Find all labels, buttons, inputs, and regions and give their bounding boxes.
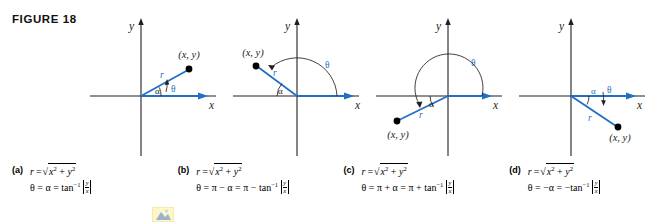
r-label: r bbox=[273, 68, 277, 78]
x-axis-label: x bbox=[354, 99, 361, 111]
point-dot bbox=[615, 124, 622, 131]
theta-label: θ bbox=[325, 60, 330, 70]
y-axis-arrowhead bbox=[445, 18, 450, 25]
r-segment bbox=[399, 96, 448, 120]
caption-a-tag: (a) bbox=[12, 163, 30, 175]
figure-label: FIGURE 18 bbox=[12, 13, 77, 25]
caption-a: (a) r =√x2 + y2 θ = α = tan−1 yx bbox=[0, 163, 166, 207]
y-axis-label: y bbox=[284, 20, 291, 33]
caption-b-tag: (b) bbox=[178, 163, 197, 175]
panel-d-diagram: y x (x, y) r θ α bbox=[517, 8, 660, 158]
panel-a: y x (x, y) r θ α bbox=[88, 8, 231, 158]
caption-row: (a) r =√x2 + y2 θ = α = tan−1 yx (b) r =… bbox=[0, 163, 663, 207]
caption-d-abs: yx bbox=[592, 180, 601, 194]
theta-label: θ bbox=[471, 58, 476, 68]
r-label: r bbox=[160, 70, 164, 80]
panel-d: y x (x, y) r θ α bbox=[517, 8, 660, 158]
theta-pointer-arrowhead bbox=[601, 100, 606, 106]
caption-a-tan-exp: −1 bbox=[74, 181, 81, 188]
y-axis-label: y bbox=[558, 20, 565, 33]
panel-b-diagram: y x (x, y) r θ α bbox=[231, 8, 374, 158]
caption-c-theta-equation: θ = π + α = π + tan−1 yx bbox=[362, 180, 455, 196]
caption-c-r-equation: r =√x2 + y2 bbox=[362, 163, 455, 180]
point-label: (x, y) bbox=[387, 129, 409, 141]
x-axis-label: x bbox=[208, 99, 215, 111]
caption-d: (d) r =√x2 + y2 θ = −α = −tan−1 yx bbox=[497, 163, 663, 207]
caption-a-theta-equation: θ = α = tan−1 yx bbox=[30, 180, 92, 196]
y-axis-arrowhead bbox=[138, 18, 143, 25]
panel-a-diagram: y x (x, y) r θ α bbox=[88, 8, 231, 158]
r-label: r bbox=[419, 110, 423, 120]
alpha-label: α bbox=[591, 86, 596, 96]
caption-d-tag: (d) bbox=[509, 163, 528, 175]
point-label: (x, y) bbox=[178, 49, 200, 61]
caption-d-theta-equation: θ = −α = −tan−1 yx bbox=[528, 180, 601, 196]
diagram-panels: y x (x, y) r θ α y x (x, y) r θ bbox=[88, 8, 663, 158]
alpha-label: α bbox=[155, 86, 160, 96]
alpha-label: α bbox=[278, 86, 283, 96]
page-corner-icon bbox=[152, 207, 174, 222]
alpha-label: α bbox=[429, 99, 434, 109]
panel-b: y x (x, y) r θ α bbox=[231, 8, 374, 158]
caption-c-tan: tan bbox=[424, 182, 436, 193]
y-axis-arrowhead bbox=[568, 18, 573, 25]
theta-label: θ bbox=[607, 85, 612, 95]
polar-axis-arrowhead bbox=[344, 92, 354, 99]
caption-b-tan: tan bbox=[259, 182, 271, 193]
caption-d-r-equation: r =√x2 + y2 bbox=[528, 163, 601, 180]
caption-c-abs: yx bbox=[445, 180, 454, 194]
caption-a-body: r =√x2 + y2 θ = α = tan−1 yx bbox=[30, 163, 92, 196]
caption-b: (b) r =√x2 + y2 θ = π − α = π − tan−1 yx bbox=[166, 163, 332, 207]
caption-b-theta-equation: θ = π − α = π − tan−1 yx bbox=[196, 180, 289, 196]
caption-d-tan-exp: −1 bbox=[583, 181, 590, 188]
theta-arc-arrowhead bbox=[416, 101, 422, 108]
caption-d-tan: tan bbox=[570, 182, 582, 193]
caption-b-body: r =√x2 + y2 θ = π − α = π − tan−1 yx bbox=[196, 163, 289, 196]
theta-label: θ bbox=[171, 84, 176, 94]
x-axis-label: x bbox=[492, 99, 499, 111]
panel-c-diagram: y x (x, y) r θ α bbox=[374, 8, 517, 158]
caption-b-tan-exp: −1 bbox=[271, 181, 278, 188]
polar-axis-arrowhead bbox=[482, 92, 492, 99]
y-axis-label: y bbox=[128, 20, 135, 33]
caption-a-r-equation: r =√x2 + y2 bbox=[30, 163, 92, 180]
point-label: (x, y) bbox=[242, 47, 264, 59]
x-axis-label: x bbox=[636, 99, 643, 111]
caption-a-theta-lhs: θ = α = bbox=[30, 182, 61, 193]
caption-a-tan: tan bbox=[61, 182, 73, 193]
point-dot bbox=[394, 118, 401, 125]
caption-c-tag: (c) bbox=[344, 163, 362, 175]
polar-axis-arrowhead bbox=[198, 92, 208, 99]
point-label: (x, y) bbox=[609, 132, 631, 144]
caption-c-tan-exp: −1 bbox=[436, 181, 443, 188]
r-segment bbox=[571, 96, 616, 126]
alpha-arc bbox=[587, 96, 589, 105]
caption-c: (c) r =√x2 + y2 θ = π + α = π + tan−1 yx bbox=[332, 163, 498, 207]
caption-c-body: r =√x2 + y2 θ = π + α = π + tan−1 yx bbox=[362, 163, 455, 196]
caption-b-abs: yx bbox=[280, 180, 289, 194]
caption-b-r-equation: r =√x2 + y2 bbox=[196, 163, 289, 180]
caption-d-theta-lhs: θ = −α = − bbox=[528, 182, 571, 193]
caption-b-theta-lhs: θ = π − α = π − bbox=[196, 182, 259, 193]
r-label: r bbox=[588, 113, 592, 123]
caption-d-body: r =√x2 + y2 θ = −α = −tan−1 yx bbox=[528, 163, 601, 196]
point-dot bbox=[186, 66, 193, 73]
r-segment bbox=[141, 70, 188, 96]
panel-c: y x (x, y) r θ α bbox=[374, 8, 517, 158]
y-axis-arrowhead bbox=[294, 18, 299, 25]
polar-axis-arrowhead bbox=[626, 92, 636, 99]
caption-a-abs: yx bbox=[83, 180, 92, 194]
caption-c-theta-lhs: θ = π + α = π + bbox=[362, 182, 425, 193]
y-axis-label: y bbox=[435, 20, 442, 33]
point-dot bbox=[253, 63, 260, 70]
